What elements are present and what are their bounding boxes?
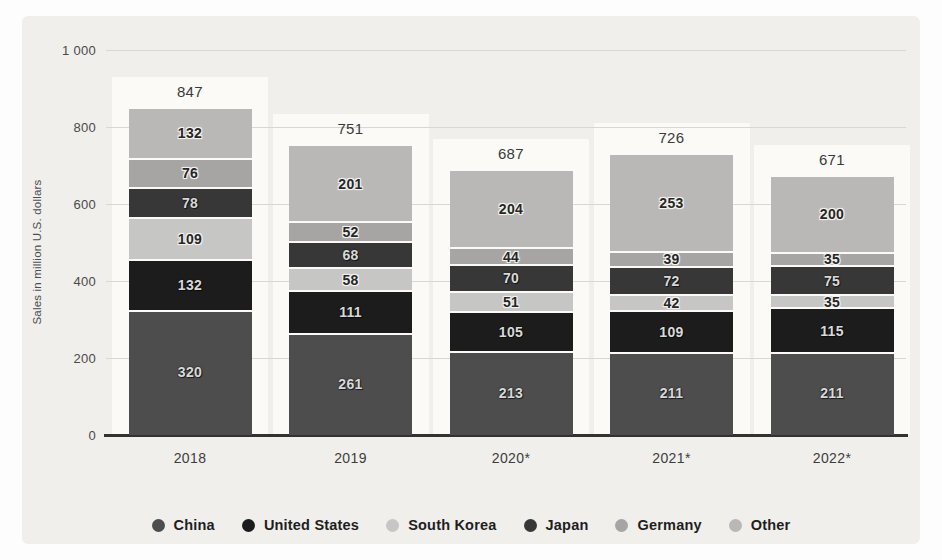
bar-segment-germany[interactable]: 39 xyxy=(610,253,733,268)
segment-value-label: 115 xyxy=(771,323,894,339)
segment-value-label: 35 xyxy=(771,294,894,310)
bar-total-label: 847 xyxy=(130,83,250,100)
segment-value-label: 42 xyxy=(610,295,733,311)
segment-value-label: 200 xyxy=(771,206,894,222)
legend-item-south-korea[interactable]: South Korea xyxy=(386,517,496,533)
legend-label-other: Other xyxy=(751,517,791,533)
bar-2018[interactable]: 3201321097876132 xyxy=(129,16,252,435)
bar-segment-united-states[interactable]: 115 xyxy=(771,309,894,353)
bar-segment-united-states[interactable]: 105 xyxy=(450,313,573,353)
legend-item-united-states[interactable]: United States xyxy=(242,517,359,533)
bar-total-label: 726 xyxy=(612,129,732,146)
bar-segment-japan[interactable]: 72 xyxy=(610,268,733,296)
china-legend-dot-icon xyxy=(152,519,165,532)
segment-value-label: 70 xyxy=(450,270,573,286)
bar-2021[interactable]: 211109427239253 xyxy=(610,16,733,435)
bar-segment-germany[interactable]: 52 xyxy=(289,223,412,243)
bar-segment-south-korea[interactable]: 58 xyxy=(289,269,412,291)
segment-value-label: 39 xyxy=(610,251,733,267)
bar-2019[interactable]: 261111586852201 xyxy=(289,16,412,435)
y-tick-label-800: 800 xyxy=(26,120,96,135)
segment-value-label: 132 xyxy=(129,125,252,141)
legend-label-germany: Germany xyxy=(637,517,701,533)
bar-segment-other[interactable]: 253 xyxy=(610,155,733,252)
y-tick-label-0: 0 xyxy=(26,428,96,443)
segment-value-label: 211 xyxy=(610,385,733,401)
bar-segment-other[interactable]: 204 xyxy=(450,171,573,250)
bar-segment-japan[interactable]: 78 xyxy=(129,189,252,219)
legend: ChinaUnited StatesSouth KoreaJapanGerman… xyxy=(22,508,920,542)
segment-value-label: 44 xyxy=(450,249,573,265)
legend-label-united-states: United States xyxy=(264,517,359,533)
segment-value-label: 51 xyxy=(450,294,573,310)
segment-value-label: 201 xyxy=(289,176,412,192)
segment-value-label: 109 xyxy=(129,231,252,247)
legend-label-south-korea: South Korea xyxy=(408,517,496,533)
bar-segment-china[interactable]: 211 xyxy=(771,354,894,435)
x-axis-label-2021: 2021* xyxy=(612,450,732,466)
segment-value-label: 213 xyxy=(450,385,573,401)
bar-segment-south-korea[interactable]: 42 xyxy=(610,296,733,312)
chart-panel: Sales in million U.S. dollars ChinaUnite… xyxy=(22,16,920,544)
x-axis-label-2020: 2020* xyxy=(451,450,571,466)
segment-value-label: 76 xyxy=(129,165,252,181)
bar-segment-germany[interactable]: 76 xyxy=(129,160,252,189)
bar-2022[interactable]: 211115357535200 xyxy=(771,16,894,435)
bar-segment-china[interactable]: 261 xyxy=(289,335,412,435)
legend-item-japan[interactable]: Japan xyxy=(524,517,589,533)
segment-value-label: 52 xyxy=(289,224,412,240)
segment-value-label: 35 xyxy=(771,251,894,267)
bar-segment-south-korea[interactable]: 35 xyxy=(771,296,894,309)
segment-value-label: 105 xyxy=(450,324,573,340)
segment-value-label: 58 xyxy=(289,272,412,288)
bar-segment-japan[interactable]: 70 xyxy=(450,266,573,293)
bar-segment-germany[interactable]: 44 xyxy=(450,249,573,266)
bar-segment-china[interactable]: 213 xyxy=(450,353,573,435)
segment-value-label: 211 xyxy=(771,385,894,401)
legend-item-germany[interactable]: Germany xyxy=(615,517,701,533)
y-axis-title: Sales in million U.S. dollars xyxy=(31,137,45,367)
bar-total-label: 687 xyxy=(451,145,571,162)
segment-value-label: 320 xyxy=(129,364,252,380)
united-states-legend-dot-icon xyxy=(242,519,255,532)
bar-segment-china[interactable]: 211 xyxy=(610,354,733,435)
segment-value-label: 78 xyxy=(129,195,252,211)
bar-total-label: 751 xyxy=(291,120,411,137)
bar-segment-other[interactable]: 201 xyxy=(289,146,412,223)
segment-value-label: 204 xyxy=(450,201,573,217)
x-axis-label-2019: 2019 xyxy=(291,450,411,466)
x-axis-label-2018: 2018 xyxy=(130,450,250,466)
bar-segment-united-states[interactable]: 132 xyxy=(129,261,252,312)
bar-segment-south-korea[interactable]: 51 xyxy=(450,293,573,313)
bar-segment-china[interactable]: 320 xyxy=(129,312,252,435)
bar-segment-united-states[interactable]: 111 xyxy=(289,292,412,335)
bar-segment-germany[interactable]: 35 xyxy=(771,254,894,267)
x-axis-label-2022: 2022* xyxy=(772,450,892,466)
legend-label-china: China xyxy=(174,517,215,533)
bar-2020[interactable]: 213105517044204 xyxy=(450,16,573,435)
y-tick-label-1000: 1 000 xyxy=(26,43,96,58)
segment-value-label: 75 xyxy=(771,273,894,289)
segment-value-label: 261 xyxy=(289,376,412,392)
legend-item-china[interactable]: China xyxy=(152,517,215,533)
segment-value-label: 132 xyxy=(129,277,252,293)
bar-segment-south-korea[interactable]: 109 xyxy=(129,219,252,261)
bar-segment-united-states[interactable]: 109 xyxy=(610,312,733,354)
bar-segment-other[interactable]: 200 xyxy=(771,177,894,254)
japan-legend-dot-icon xyxy=(524,519,537,532)
legend-item-other[interactable]: Other xyxy=(729,517,791,533)
bar-segment-other[interactable]: 132 xyxy=(129,109,252,160)
chart-page: { "y_axis": { "title": "Sales in million… xyxy=(0,0,942,560)
south-korea-legend-dot-icon xyxy=(386,519,399,532)
y-tick-label-600: 600 xyxy=(26,197,96,212)
bar-segment-japan[interactable]: 68 xyxy=(289,243,412,269)
segment-value-label: 109 xyxy=(610,324,733,340)
legend-label-japan: Japan xyxy=(546,517,589,533)
y-tick-label-200: 200 xyxy=(26,351,96,366)
other-legend-dot-icon xyxy=(729,519,742,532)
bar-segment-japan[interactable]: 75 xyxy=(771,267,894,296)
bar-total-label: 671 xyxy=(772,151,892,168)
germany-legend-dot-icon xyxy=(615,519,628,532)
segment-value-label: 253 xyxy=(610,195,733,211)
segment-value-label: 111 xyxy=(289,304,412,320)
